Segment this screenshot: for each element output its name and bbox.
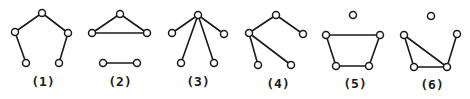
graph-edge: [198, 15, 214, 63]
graph-edge: [59, 33, 68, 63]
graph-node: [211, 60, 218, 67]
graph-node: [117, 11, 124, 18]
graph-edge: [249, 33, 291, 65]
graph-node: [144, 30, 151, 37]
graph-node: [39, 10, 46, 17]
graph-node: [255, 62, 262, 69]
graph-node: [134, 60, 141, 67]
graph-node: [12, 29, 19, 36]
graph-edge: [404, 35, 447, 67]
graph-2: (2): [89, 11, 151, 90]
graph-edge: [249, 33, 258, 65]
graph-node: [178, 60, 185, 67]
graph-1: (1): [12, 10, 72, 90]
graph-node: [169, 30, 176, 37]
graph-label: (2): [108, 74, 131, 89]
graph-node: [56, 60, 63, 67]
graph-node: [377, 32, 384, 39]
graph-edge: [249, 15, 276, 33]
graph-node: [288, 62, 295, 69]
graph-label: (6): [420, 77, 443, 92]
graph-5: (5): [323, 12, 384, 92]
graph-edge: [369, 35, 380, 66]
graph-node: [333, 63, 340, 70]
graph-node: [23, 60, 30, 67]
graph-node: [65, 30, 72, 37]
graph-diagram-figure: (1) (2) (3) (4) (5) (6): [0, 0, 470, 99]
graph-node: [454, 31, 461, 38]
graph-edge: [181, 15, 198, 63]
graph-label: (4): [266, 76, 289, 91]
graph-node: [100, 60, 107, 67]
graph-node: [411, 64, 418, 71]
graph-label: (3): [186, 74, 209, 89]
graph-3: (3): [169, 12, 228, 90]
graph-node: [273, 12, 280, 19]
graph-edge: [42, 13, 68, 33]
graph-edge: [15, 32, 26, 63]
graph-edge: [404, 35, 414, 67]
graph-node: [300, 31, 307, 38]
graph-node: [401, 32, 408, 39]
graph-node: [246, 30, 253, 37]
graph-edge: [120, 14, 147, 33]
graph-label: (5): [343, 76, 366, 91]
graph-node: [195, 12, 202, 19]
graph-edge: [15, 13, 42, 32]
graph-edge: [447, 34, 457, 67]
graph-node: [366, 63, 373, 70]
graph-edge: [326, 35, 336, 66]
graph-edge: [276, 15, 303, 34]
graph-node: [89, 30, 96, 37]
graph-edge: [92, 14, 120, 33]
graph-node: [444, 64, 451, 71]
graph-label: (1): [31, 74, 54, 89]
graph-node: [428, 13, 435, 20]
graph-6: (6): [401, 13, 461, 93]
graph-node: [323, 32, 330, 39]
graph-4: (4): [246, 12, 307, 92]
graph-node: [350, 12, 357, 19]
graph-node: [221, 31, 228, 38]
